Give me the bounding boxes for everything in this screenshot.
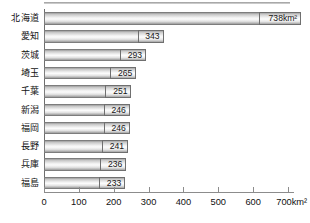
bar-value-label: 236 xyxy=(100,158,126,171)
category-label: 埼玉 xyxy=(0,64,39,82)
bar-value-label: 251 xyxy=(105,85,131,98)
x-axis-tick-label: 200 xyxy=(106,197,122,207)
bar-value-label: 233 xyxy=(99,177,125,190)
category-label: 長野 xyxy=(0,137,39,155)
x-axis-tick-label: 700km² xyxy=(276,197,307,207)
bar-row: 兵庫236 xyxy=(0,155,310,173)
category-label: 北海道 xyxy=(0,9,39,27)
category-label: 福岡 xyxy=(0,119,39,137)
category-label: 福島 xyxy=(0,174,39,192)
bar-row: 長野241 xyxy=(0,137,310,155)
x-axis-line xyxy=(44,192,294,193)
bar-row: 埼玉265 xyxy=(0,64,310,82)
bar-value-label: 738km² xyxy=(259,12,301,25)
bar-row: 茨城293 xyxy=(0,46,310,64)
x-axis-tick-label: 0 xyxy=(41,197,46,207)
x-axis-tick-label: 500 xyxy=(211,197,227,207)
x-axis-tick xyxy=(79,187,80,193)
category-label: 茨城 xyxy=(0,46,39,64)
category-label: 兵庫 xyxy=(0,155,39,173)
category-label: 愛知 xyxy=(0,27,39,45)
bar-value-label: 343 xyxy=(138,30,164,43)
x-axis-tick xyxy=(114,187,115,193)
x-axis-tick xyxy=(218,187,219,193)
category-label: 千葉 xyxy=(0,82,39,100)
bar-value-label: 293 xyxy=(120,49,146,62)
bar-row: 千葉251 xyxy=(0,82,310,100)
bar-row: 愛知343 xyxy=(0,27,310,45)
horizontal-bar-chart: 北海道738km²愛知343茨城293埼玉265千葉251新潟246福岡246長… xyxy=(0,0,310,223)
bar-value-label: 241 xyxy=(102,140,128,153)
x-axis-tick xyxy=(149,187,150,193)
bar-value-label: 246 xyxy=(104,122,130,135)
x-axis-tick xyxy=(288,187,289,193)
bar-value-label: 246 xyxy=(104,104,130,117)
x-axis-tick xyxy=(183,187,184,193)
category-label: 新潟 xyxy=(0,101,39,119)
bar-row: 福岡246 xyxy=(0,119,310,137)
bar-value-label: 265 xyxy=(110,67,136,80)
x-axis-tick-label: 400 xyxy=(176,197,192,207)
x-axis-tick xyxy=(44,187,45,193)
x-axis-tick-label: 100 xyxy=(71,197,87,207)
bar-row: 新潟246 xyxy=(0,101,310,119)
x-axis-tick xyxy=(253,187,254,193)
bar-row: 福島233 xyxy=(0,174,310,192)
x-axis-tick-label: 600 xyxy=(245,197,261,207)
x-axis-tick-label: 300 xyxy=(141,197,157,207)
bar-row: 北海道738km² xyxy=(0,9,310,27)
